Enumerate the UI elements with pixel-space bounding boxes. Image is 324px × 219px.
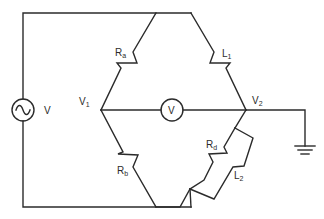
node-v2-label: V2 [252, 95, 263, 107]
node-v1-label: V1 [79, 96, 90, 108]
ground-icon [246, 110, 315, 154]
resistor-rb [101, 110, 156, 207]
bridge-circuit-diagram: V Ra L1 Rb Rd L2 V V1 V2 [0, 0, 324, 219]
ac-source-icon [12, 99, 34, 121]
label-rb: Rb [117, 165, 128, 177]
voltmeter-label: V [168, 105, 175, 116]
parallel-rd-l2 [156, 110, 253, 207]
inductor-l1 [191, 13, 246, 110]
label-l1: L1 [222, 48, 232, 60]
source-label: V [44, 105, 51, 116]
label-l2: L2 [234, 170, 244, 182]
label-ra: Ra [115, 47, 126, 59]
resistor-ra [101, 13, 156, 110]
label-rd: Rd [206, 139, 217, 151]
